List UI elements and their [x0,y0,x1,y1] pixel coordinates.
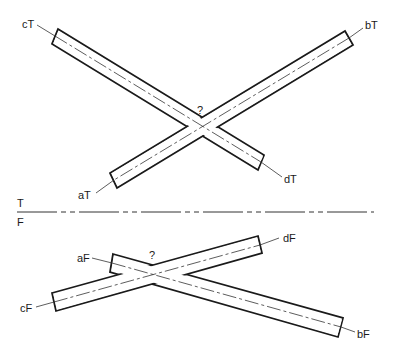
top-view: cT bT aT dT ? [22,18,378,201]
question-mark-front: ? [149,249,155,261]
question-mark-top: ? [197,104,203,116]
leader-bT [349,28,363,38]
orthographic-drawing: cT bT aT dT ? T F aF dF cF bF ? [0,0,397,362]
leader-cT [37,25,55,36]
front-centerline-ab [112,263,341,327]
label-dF: dF [283,232,296,244]
leader-aF [92,258,112,263]
leader-bF [341,327,355,332]
fold-line-group: T F [17,197,374,228]
fold-label-T: T [17,197,24,209]
label-bT: bT [365,19,378,31]
label-cF: cF [20,302,33,314]
fold-label-F: F [17,216,24,228]
label-cT: cT [22,18,35,30]
front-view: aF dF cF bF ? [20,232,370,340]
label-dT: dT [284,173,297,185]
leader-aT [96,180,114,193]
label-aT: aT [78,189,91,201]
leader-cF [36,302,54,307]
leader-dT [261,162,282,177]
label-bF: bF [357,328,370,340]
label-aF: aF [77,252,90,264]
leader-dF [260,238,279,245]
